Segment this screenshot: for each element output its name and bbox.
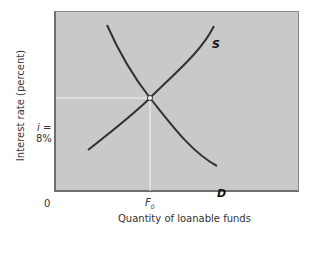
equilibrium-point [148, 96, 153, 101]
x-axis-label: Quantity of loanable funds [118, 213, 251, 224]
curves-svg [56, 12, 299, 191]
rate-tick-label: 8% [36, 133, 52, 144]
supply-label: S [212, 38, 220, 51]
plot-area [54, 11, 299, 192]
supply-curve [88, 26, 214, 150]
f0-tick-label: F0 [145, 197, 155, 210]
demand-label: D [217, 187, 226, 200]
origin-label: 0 [44, 198, 50, 209]
y-axis-label: Interest rate (percent) [15, 46, 26, 166]
i-equals-label: i = [37, 122, 51, 133]
